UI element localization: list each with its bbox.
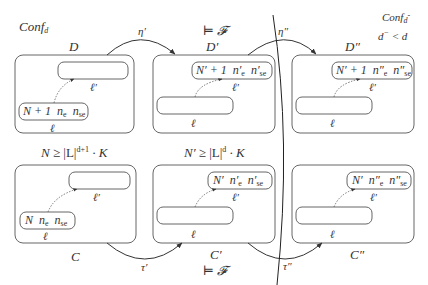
Dp-label-l: ℓ bbox=[191, 118, 196, 129]
label-models-F-bottom: ⊨ 𝓕 bbox=[203, 264, 227, 277]
label-D: D bbox=[69, 40, 78, 53]
C-label-l: ℓ bbox=[43, 231, 48, 242]
title-dminus-lt-d: d− < d bbox=[378, 29, 407, 42]
title-conf-dminus: Confd- bbox=[382, 12, 410, 25]
label-models-F-top: ⊨ 𝓕 bbox=[203, 24, 227, 37]
label-D-prime: D′ bbox=[206, 40, 218, 53]
D-dotted-edge bbox=[54, 79, 74, 103]
Dpp-label-l: ℓ bbox=[330, 118, 335, 129]
Cpp-label-lprime: ℓ′ bbox=[370, 192, 377, 203]
Cp-label-lprime: ℓ′ bbox=[232, 192, 239, 203]
arrow-tau-dprime bbox=[248, 243, 322, 259]
label-eta-prime: η′ bbox=[138, 26, 146, 37]
title-conf-d: Confd bbox=[19, 20, 48, 35]
Cpp-node-upper-text: N′ n″e n″se bbox=[352, 174, 407, 188]
Cp-node-lower bbox=[157, 207, 233, 224]
label-C: C bbox=[71, 250, 80, 263]
label-C-dprime: C″ bbox=[350, 248, 364, 261]
D-label-lprime: ℓ′ bbox=[90, 82, 97, 93]
Dp-node-upper-text: N′ + 1 n′e n′se bbox=[196, 64, 266, 78]
arrow-eta-dprime bbox=[248, 40, 316, 55]
Dp-dotted-edge bbox=[195, 79, 222, 97]
Cp-label-l: ℓ bbox=[191, 229, 196, 240]
D-label-l: ℓ bbox=[50, 123, 55, 134]
Dpp-dotted-edge bbox=[334, 79, 360, 97]
C-dotted-edge bbox=[48, 189, 77, 212]
Dp-label-lprime: ℓ′ bbox=[232, 82, 239, 93]
Dpp-node-lower bbox=[296, 97, 372, 114]
Cp-dotted-edge bbox=[195, 189, 216, 207]
label-C-prime: C′ bbox=[210, 248, 222, 261]
Cpp-label-l: ℓ bbox=[330, 229, 335, 240]
Dpp-node-upper-text: N′ + 1 n″e n″se bbox=[336, 64, 411, 78]
Cp-node-upper-text: N′ n′e n′se bbox=[213, 174, 263, 188]
label-tau-prime: τ′ bbox=[141, 262, 147, 273]
arrow-eta-prime bbox=[107, 40, 175, 55]
box-D bbox=[15, 55, 134, 133]
label-tau-dprime: τ″ bbox=[283, 261, 292, 272]
condition-middle: N′ ≥ |L|d · K bbox=[184, 146, 245, 159]
C-node-lower-text: N ne nse bbox=[25, 214, 67, 228]
Cpp-node-lower bbox=[296, 207, 372, 224]
box-C bbox=[15, 165, 136, 243]
condition-left: N ≥ |L|d+1 · K bbox=[41, 146, 107, 159]
Cpp-dotted-edge bbox=[334, 189, 355, 207]
C-node-upper bbox=[69, 172, 130, 189]
arrow-tau-prime bbox=[107, 243, 182, 259]
Dp-node-lower bbox=[157, 97, 233, 114]
D-node-upper bbox=[58, 62, 128, 79]
label-D-dprime: D″ bbox=[345, 40, 360, 53]
separator-curve bbox=[273, 15, 284, 285]
Dpp-label-lprime: ℓ′ bbox=[369, 82, 376, 93]
D-node-lower-text: N + 1 ne nse bbox=[23, 105, 85, 119]
C-label-lprime: ℓ′ bbox=[93, 192, 100, 203]
label-eta-dprime: η″ bbox=[278, 26, 288, 37]
